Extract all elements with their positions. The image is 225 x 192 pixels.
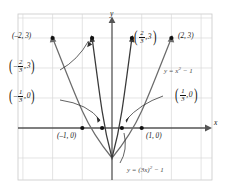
point-neg2-3 xyxy=(51,36,55,40)
numerator: 2 xyxy=(139,30,144,37)
paren-open: ( xyxy=(134,30,138,44)
point-one-third-0 xyxy=(120,126,124,130)
paren-open: ( xyxy=(9,89,13,103)
paren-close: ) xyxy=(153,30,157,44)
numerator: 1 xyxy=(180,88,185,95)
comma: , xyxy=(24,62,26,70)
point-label-neg1-0: (–1, 0) xyxy=(57,133,76,140)
paren-close: ) xyxy=(194,88,198,102)
denominator: 3 xyxy=(139,37,144,45)
equation-tail: − 1 xyxy=(183,67,193,75)
point-neg1-0 xyxy=(80,126,84,130)
point-label-neg-two-thirds-3: ( – 2 3 , 3 ) xyxy=(8,59,36,73)
comma: , xyxy=(145,33,147,41)
fraction-two-thirds: 2 3 xyxy=(18,59,23,73)
equation-lhs: y = xyxy=(164,67,174,75)
comma: , xyxy=(186,91,188,99)
point-label-1-0: (1, 0) xyxy=(146,133,162,140)
minus-sign: – xyxy=(14,62,18,70)
fraction-two-thirds: 2 3 xyxy=(139,30,144,44)
fraction-one-third: 1 3 xyxy=(18,89,23,103)
comma: , xyxy=(24,92,26,100)
point-label-neg2-3: (–2, 3) xyxy=(12,33,31,40)
numerator: 2 xyxy=(18,59,23,66)
equation-tail: − 1 xyxy=(154,166,164,174)
paren-open: ( xyxy=(9,59,13,73)
numerator: 1 xyxy=(18,89,23,96)
paren-open: ( xyxy=(175,88,179,102)
point-neg-one-third-0 xyxy=(100,126,104,130)
point-label-2-3: (2, 3) xyxy=(178,33,194,40)
point-label-neg-one-third-0: ( – 1 3 , 0 ) xyxy=(8,89,36,103)
y-value: 3 xyxy=(148,33,152,41)
denominator: 3 xyxy=(180,95,185,103)
y-value: 0 xyxy=(27,92,31,100)
point-neg-two-thirds-3 xyxy=(90,36,94,40)
fraction-one-third: 1 3 xyxy=(180,88,185,102)
paren-close: ) xyxy=(32,89,36,103)
point-label-two-thirds-3: ( 2 3 , 3 ) xyxy=(133,30,157,44)
paren-close: ) xyxy=(32,59,36,73)
equation-lhs: y = xyxy=(127,166,137,174)
equation-base: (3x) xyxy=(138,166,149,174)
y-value: 3 xyxy=(27,62,31,70)
point-1-0 xyxy=(140,126,144,130)
point-label-one-third-0: ( 1 3 , 0 ) xyxy=(174,88,198,102)
denominator: 3 xyxy=(18,96,23,104)
y-value: 0 xyxy=(189,91,193,99)
x-axis-label: x xyxy=(214,119,217,127)
graph-figure: (–2, 3) (2, 3) (–1, 0) (1, 0) ( – 2 3 , … xyxy=(0,0,225,192)
point-2-3 xyxy=(169,36,173,40)
y-axis-label: y xyxy=(110,10,113,18)
equation-label-narrow-parabola: y = (3x)2 − 1 xyxy=(127,167,164,174)
equation-label-wide-parabola: y = x2 − 1 xyxy=(164,68,193,75)
denominator: 3 xyxy=(18,66,23,74)
minus-sign: – xyxy=(14,92,18,100)
